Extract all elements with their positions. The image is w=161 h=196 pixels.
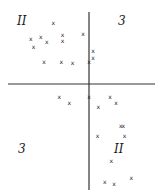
data-point: x [91,47,95,54]
data-point: x [96,132,100,139]
data-point: x [87,93,91,100]
data-point: x [129,174,133,181]
data-point: x [123,132,127,139]
data-point: x [103,178,107,185]
data-point: x [108,93,112,100]
scatter-plot: II 3 3 II xxxxxxxxxxxxxxxxxxxxxxxxxxxx [0,0,161,196]
data-point: x [122,122,126,129]
data-point: x [58,93,62,100]
quadrant-label-bottom-right: II [113,142,124,156]
quadrant-label-top-left: II [16,14,27,28]
data-point: x [61,37,65,44]
data-point: x [60,58,64,65]
data-point: x [91,54,95,61]
data-point: x [45,38,49,45]
data-point: x [114,99,118,106]
data-point: x [110,157,114,164]
data-point: x [42,58,46,65]
data-point: x [87,58,91,65]
quadrant-label-bottom-left: 3 [18,142,26,156]
data-point: x [112,180,116,187]
data-point: x [71,59,75,66]
data-point: x [67,99,71,106]
data-point: x [81,30,85,37]
data-point: x [52,19,56,26]
data-point: x [32,43,36,50]
quadrant-label-top-right: 3 [118,14,126,28]
data-point: x [39,33,43,40]
data-point: x [29,35,33,42]
markers-group: xxxxxxxxxxxxxxxxxxxxxxxxxxxx [29,19,133,187]
data-point: x [96,103,100,110]
